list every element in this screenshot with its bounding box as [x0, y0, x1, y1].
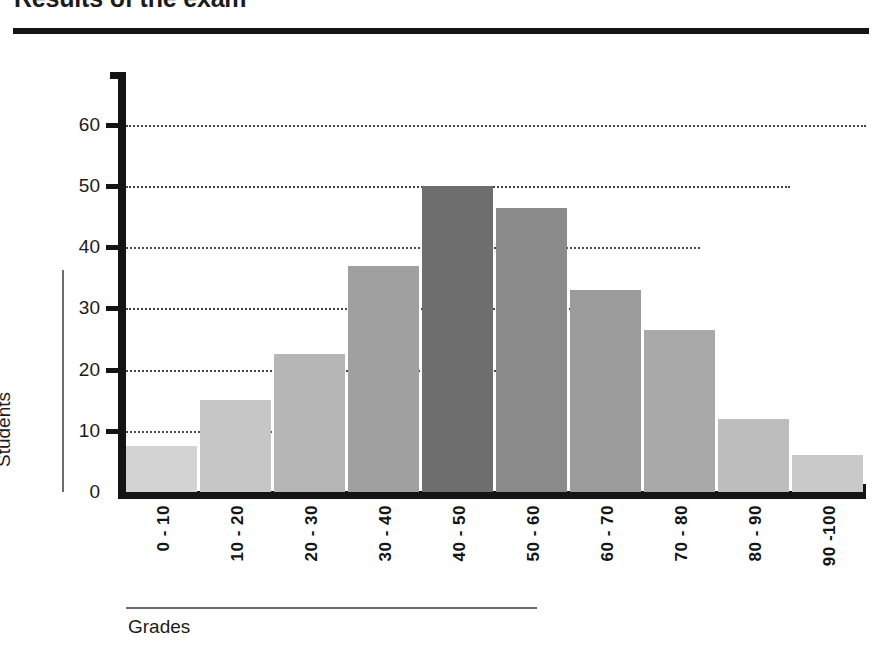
x-axis-tick-label: 80 - 90 — [746, 505, 766, 561]
x-axis-tick-label: 90 -100 — [820, 505, 840, 566]
y-axis-tick — [106, 368, 120, 373]
y-axis-tick-label-text: 50 — [56, 176, 100, 195]
y-axis-tick — [106, 245, 120, 250]
bar — [348, 266, 419, 492]
bar — [792, 455, 863, 492]
bar — [200, 400, 271, 492]
x-axis-title-rule — [126, 607, 537, 609]
y-axis-tick — [106, 184, 120, 189]
bar — [274, 354, 345, 492]
y-axis-tick — [106, 429, 120, 434]
x-axis-tick-label: 10 - 20 — [228, 505, 248, 561]
x-axis-tick-label: 50 - 60 — [524, 505, 544, 561]
x-axis-title: Grades — [128, 616, 190, 638]
x-axis-tick-label: 70 - 80 — [672, 505, 692, 561]
y-axis-line — [118, 72, 126, 498]
x-axis-tick-label: 40 - 50 — [450, 505, 470, 561]
y-axis-top-cap — [110, 72, 126, 79]
bar — [496, 208, 567, 492]
x-axis-tick-label: 0 - 10 — [154, 505, 174, 551]
y-axis-tick — [106, 306, 120, 311]
bar — [126, 446, 197, 492]
x-axis-tick-label: 20 - 30 — [302, 505, 322, 561]
bar — [718, 419, 789, 492]
bar — [644, 330, 715, 492]
y-axis-tick — [106, 123, 120, 128]
y-axis-title: Students — [0, 392, 15, 467]
bar — [422, 186, 493, 492]
x-axis-line — [118, 491, 866, 499]
x-axis-tick-label: 30 - 40 — [376, 505, 396, 561]
y-axis-title-rule — [62, 270, 64, 492]
gridline — [126, 247, 700, 249]
bar-chart: 0102030405060 0 - 1010 - 2020 - 3030 - 4… — [0, 0, 882, 663]
bar — [570, 290, 641, 492]
gridline — [126, 125, 866, 127]
y-axis-tick-label-text: 40 — [56, 237, 100, 256]
y-axis-tick-label-text: 60 — [56, 115, 100, 134]
x-axis-tick-label: 60 - 70 — [598, 505, 618, 561]
